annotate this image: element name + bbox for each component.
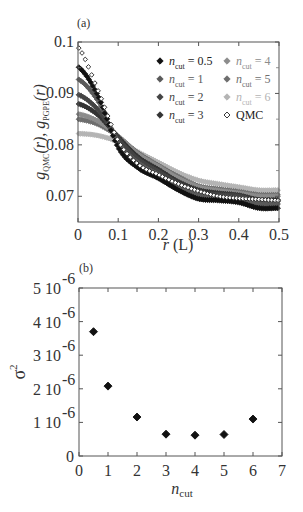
x-tick-label: 6 (249, 462, 257, 479)
y-tick-label: 0.09 (46, 84, 74, 101)
legend-item: ncut = 2 (157, 90, 204, 107)
legend-label: ncut = 5 (236, 72, 271, 89)
panel-a-chart: (a) 00.10.20.30.40.50.070.080.090.1 ncut… (31, 16, 289, 254)
x-tick-label: 0 (74, 226, 82, 243)
panel-b-x-axis-label: ncut (171, 480, 192, 499)
panel-b-label: (b) (79, 261, 93, 275)
panel-a-x-axis-label: r (L) (163, 236, 194, 254)
panel-a-legend: ncut = 0.5ncut = 1ncut = 2ncut = 3ncut =… (157, 54, 271, 125)
x-tick-label: 3 (162, 462, 170, 479)
legend-label: ncut = 0.5 (169, 54, 213, 71)
panel-b-y-axis-label: σ2 (7, 364, 29, 379)
y-tick-exponent: -6 (62, 270, 75, 287)
filled-diamond-icon (157, 94, 163, 100)
legend-item: ncut = 6 (224, 90, 271, 107)
x-tick-label: 0 (75, 462, 83, 479)
legend-label: ncut = 1 (169, 72, 204, 89)
filled-diamond-icon (157, 76, 163, 82)
data-point (220, 430, 228, 438)
panel-b-data-points (90, 328, 258, 439)
legend-label: ncut = 6 (236, 90, 271, 107)
filled-diamond-icon (224, 94, 230, 100)
data-point (249, 415, 257, 423)
data-point (86, 65, 91, 70)
x-tick-label: 5 (220, 462, 228, 479)
legend-item: ncut = 0.5 (157, 54, 213, 71)
figure: (a) 00.10.20.30.40.50.070.080.090.1 ncut… (0, 0, 303, 512)
data-point (191, 431, 199, 439)
data-point (83, 57, 88, 62)
y-tick-label: 5 10 (33, 280, 61, 297)
y-tick-label: 4 10 (33, 314, 61, 331)
x-tick-label: 0.4 (229, 226, 249, 243)
legend-item: ncut = 1 (157, 72, 204, 89)
data-point (133, 413, 141, 421)
filled-diamond-icon (157, 112, 163, 118)
y-tick-label: 0.07 (46, 187, 74, 204)
legend-item: ncut = 5 (224, 72, 271, 89)
x-tick-label: 7 (278, 462, 286, 479)
data-point (90, 328, 98, 336)
y-tick-exponent: -6 (62, 371, 75, 388)
legend-label: ncut = 2 (169, 90, 204, 107)
y-tick-label: 0 (66, 448, 74, 465)
open-diamond-icon (224, 112, 230, 118)
panel-b-frame (79, 288, 282, 456)
filled-diamond-icon (157, 58, 163, 64)
x-tick-label: 2 (133, 462, 141, 479)
y-tick-exponent: -6 (62, 337, 75, 354)
data-point (104, 382, 112, 390)
y-tick-exponent: -6 (62, 404, 75, 421)
legend-label: QMC (236, 108, 263, 122)
legend-label: ncut = 4 (236, 54, 271, 71)
filled-diamond-icon (224, 58, 230, 64)
x-tick-label: 0.5 (269, 226, 289, 243)
y-tick-exponent: -6 (62, 304, 75, 321)
panel-b-axis-ticks: 0123456701 10-62 10-63 10-64 10-65 10-6 (33, 270, 286, 479)
legend-item: ncut = 3 (157, 108, 204, 125)
y-tick-label: 0.1 (54, 33, 74, 50)
data-point (80, 51, 85, 56)
filled-diamond-icon (224, 76, 230, 82)
legend-label: ncut = 3 (169, 108, 204, 125)
data-point (77, 46, 82, 51)
x-tick-label: 4 (191, 462, 199, 479)
legend-item: ncut = 4 (224, 54, 271, 71)
data-point (162, 430, 170, 438)
y-tick-label: 1 10 (33, 414, 61, 431)
y-tick-label: 0.08 (46, 136, 74, 153)
panel-a-label: (a) (77, 16, 90, 30)
legend-item: QMC (224, 108, 263, 122)
x-tick-label: 0.1 (108, 226, 128, 243)
y-tick-label: 3 10 (33, 347, 61, 364)
y-tick-label: 2 10 (33, 381, 61, 398)
data-point (89, 73, 94, 78)
panel-b-chart: (b) 0123456701 10-62 10-63 10-64 10-65 1… (7, 261, 286, 499)
x-tick-label: 1 (104, 462, 112, 479)
